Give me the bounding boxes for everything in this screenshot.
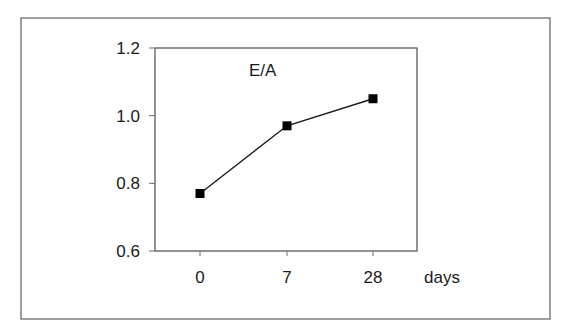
y-tick-label: 0.8 <box>116 174 140 193</box>
y-tick-label: 1.2 <box>116 39 140 58</box>
data-point-marker <box>283 121 292 130</box>
series-annotation: E/A <box>249 61 277 80</box>
x-tick-label: 28 <box>364 268 383 287</box>
x-axis-label: days <box>424 268 460 287</box>
data-point-marker <box>369 94 378 103</box>
x-tick-label: 7 <box>282 268 291 287</box>
x-tick-label: 0 <box>195 268 204 287</box>
y-axis: 0.60.81.01.2 <box>116 39 155 261</box>
x-axis: 0728 <box>195 251 382 287</box>
data-point-marker <box>196 189 205 198</box>
y-tick-label: 1.0 <box>116 107 140 126</box>
line-chart: 0.60.81.01.2 0728 E/A days <box>0 0 562 332</box>
y-tick-label: 0.6 <box>116 242 140 261</box>
plot-area <box>155 48 417 251</box>
